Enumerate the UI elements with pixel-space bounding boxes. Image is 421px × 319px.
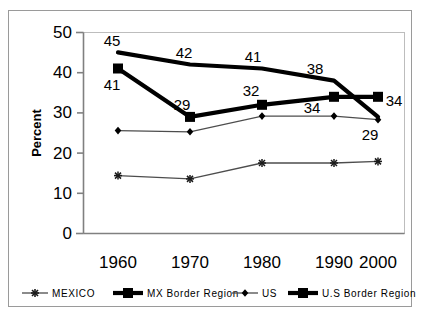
y-tick-label-0: 0 xyxy=(63,224,72,243)
data-label-mxbr-1980: 32 xyxy=(243,82,260,99)
diamond-icon xyxy=(242,289,249,297)
legend-label-us: US xyxy=(262,288,277,299)
legend-item-mx-border-region[interactable]: MX Border Region xyxy=(113,288,239,299)
x-tick-label-1970: 1970 xyxy=(171,253,209,272)
legend-item-mexico[interactable]: MEXICO xyxy=(22,288,95,299)
y-tick-label-10: 10 xyxy=(53,184,72,203)
legend-item-us-border-region[interactable]: U.S Border Region xyxy=(288,288,416,299)
y-tick-label-20: 20 xyxy=(53,144,72,163)
y-axis-ticks xyxy=(76,33,84,234)
data-label-usbr-1960: 45 xyxy=(104,32,121,49)
legend-label-mexico: MEXICO xyxy=(52,288,95,299)
chart-legend: MEXICO MX Border Region US U.S Border Re… xyxy=(22,288,416,299)
x-tick-label-1980: 1980 xyxy=(243,253,281,272)
x-tick-label-2000: 2000 xyxy=(359,253,397,272)
chart-figure: 0 10 20 30 40 50 Percent 1960 1970 1980 … xyxy=(0,0,421,319)
square-icon xyxy=(123,288,133,298)
y-tick-label-50: 50 xyxy=(53,23,72,42)
data-label-usbr-2000: 29 xyxy=(362,126,379,143)
asterisk-icon xyxy=(31,289,39,297)
x-tick-label-1990: 1990 xyxy=(315,253,353,272)
data-label-usbr-1980: 41 xyxy=(245,48,262,65)
legend-label-mx-border-region: MX Border Region xyxy=(147,288,239,299)
x-tick-label-1960: 1960 xyxy=(99,253,137,272)
y-tick-label-40: 40 xyxy=(53,63,72,82)
y-axis-title: Percent xyxy=(29,108,44,156)
legend-label-us-border-region: U.S Border Region xyxy=(322,288,416,299)
y-tick-label-30: 30 xyxy=(53,103,72,122)
data-label-mxbr-1960: 41 xyxy=(104,76,121,93)
data-label-usbr-1970: 42 xyxy=(176,44,193,61)
data-label-mxbr-1970: 29 xyxy=(174,96,191,113)
square-icon-2 xyxy=(298,288,308,298)
data-label-mxbr-2000: 34 xyxy=(386,92,403,109)
line-chart-canvas: 0 10 20 30 40 50 Percent 1960 1970 1980 … xyxy=(0,0,421,319)
data-label-usbr-1990: 38 xyxy=(307,60,324,77)
data-label-mxbr-1990: 34 xyxy=(304,99,321,116)
